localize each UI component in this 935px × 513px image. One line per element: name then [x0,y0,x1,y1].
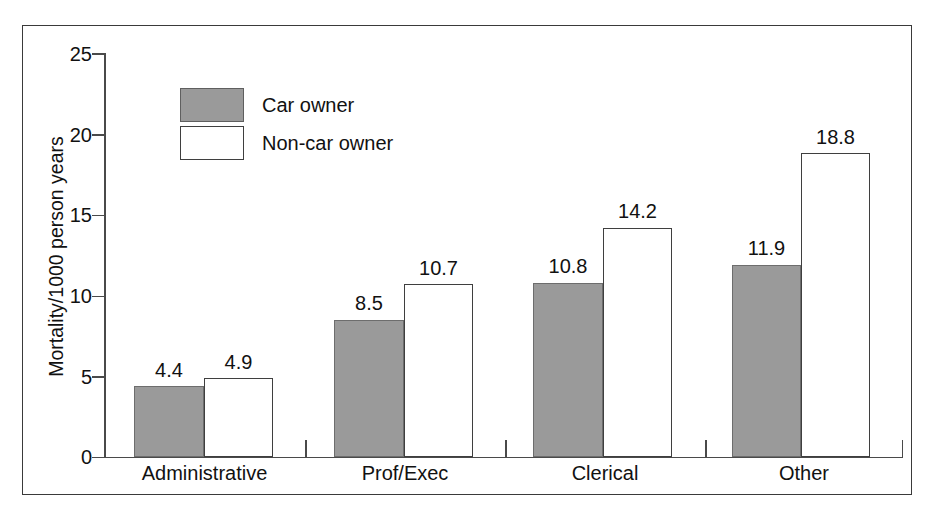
bar-clerical-non-car-owner[interactable] [603,228,672,458]
bar-value-other-car-owner: 11.9 [732,238,801,258]
bar-other-non-car-owner[interactable] [801,153,870,457]
y-tick-0 [92,457,104,459]
bar-value-profexec-car-owner: 8.5 [334,293,404,313]
bar-value-profexec-non-car-owner: 10.7 [404,258,473,278]
bar-administrative-non-car-owner[interactable] [204,378,273,457]
bar-value-clerical-car-owner: 10.8 [533,256,603,276]
bar-profexec-non-car-owner[interactable] [404,284,473,457]
legend-label-car-owner: Car owner [262,94,354,117]
legend-swatch-non-car-owner [180,126,244,160]
plot-area: Mortality/1000 person years 0 5 10 15 20… [0,0,935,513]
legend-label-non-car-owner: Non-car owner [262,132,393,155]
y-tick-10 [92,296,104,298]
category-label-administrative: Administrative [104,462,305,485]
y-tick-label-15: 15 [48,205,92,225]
legend-swatch-car-owner [180,88,244,122]
y-axis-line [104,53,106,458]
bar-value-other-non-car-owner: 18.8 [801,127,870,147]
y-tick-label-5: 5 [48,367,92,387]
y-tick-label-25: 25 [48,44,92,64]
x-tick-separator-4 [902,440,904,457]
x-tick-separator-1 [305,440,307,457]
x-tick-separator-2 [505,440,507,457]
bar-profexec-car-owner[interactable] [334,320,404,457]
y-tick-label-10: 10 [48,286,92,306]
bar-administrative-car-owner[interactable] [134,386,204,457]
bar-other-car-owner[interactable] [732,265,801,457]
y-tick-5 [92,376,104,378]
y-tick-15 [92,215,104,217]
category-label-profexec: Prof/Exec [305,462,505,485]
y-tick-label-0: 0 [48,447,92,467]
y-tick-20 [92,134,104,136]
bar-value-administrative-car-owner: 4.4 [134,360,204,380]
bar-chart-figure: Mortality/1000 person years 0 5 10 15 20… [0,0,935,513]
y-tick-25 [92,53,104,55]
category-label-other: Other [705,462,903,485]
bar-clerical-car-owner[interactable] [533,283,603,458]
y-axis-title: Mortality/1000 person years [45,57,68,457]
bar-value-clerical-non-car-owner: 14.2 [603,201,672,221]
bar-value-administrative-non-car-owner: 4.9 [204,352,273,372]
x-tick-separator-3 [705,440,707,457]
category-label-clerical: Clerical [505,462,705,485]
y-tick-label-20: 20 [48,125,92,145]
